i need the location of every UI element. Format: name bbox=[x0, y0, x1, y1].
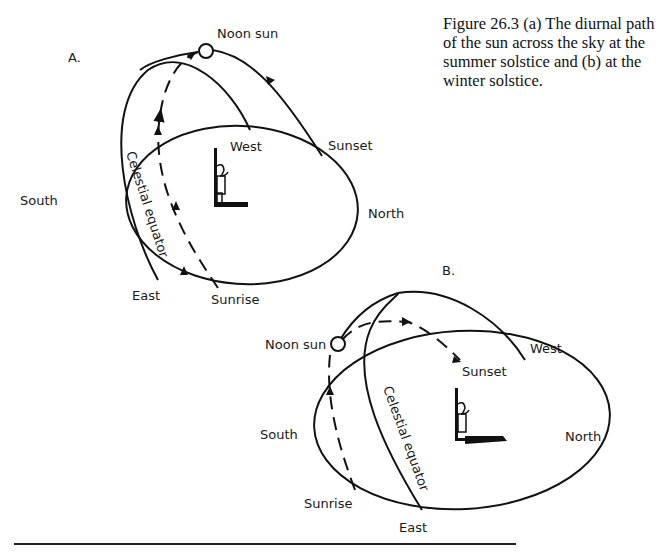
east-label-b: East bbox=[399, 520, 427, 535]
diagram-canvas: A. Noon sun West Sunset South North East… bbox=[0, 0, 658, 553]
south-label-a: South bbox=[20, 193, 58, 208]
panel-b: B. Noon sun West Sunset South North East… bbox=[260, 263, 614, 535]
panel-a: A. Noon sun West Sunset South North East… bbox=[20, 26, 404, 307]
bottom-rule-divider bbox=[14, 543, 516, 545]
south-label-b: South bbox=[260, 427, 298, 442]
north-label-b: North bbox=[565, 429, 601, 444]
arrow-icon bbox=[266, 76, 275, 85]
noon-sun-label-b: Noon sun bbox=[265, 337, 326, 352]
east-label-a: East bbox=[132, 288, 160, 303]
arrow-icon bbox=[402, 317, 411, 326]
panel-b-label: B. bbox=[442, 263, 455, 278]
observer-figure-icon-b bbox=[455, 388, 507, 444]
west-label-b: West bbox=[530, 341, 562, 356]
noon-sun-label-a: Noon sun bbox=[217, 26, 278, 41]
sunset-label-a: Sunset bbox=[328, 138, 373, 153]
sunset-label-b: Sunset bbox=[462, 364, 507, 379]
observer-figure-icon-a bbox=[214, 148, 248, 207]
noon-sun-icon-b bbox=[331, 337, 345, 351]
panel-a-label: A. bbox=[68, 50, 81, 65]
west-label-a: West bbox=[230, 139, 262, 154]
arrow-icon bbox=[172, 201, 180, 210]
horizon-ellipse-b bbox=[310, 323, 615, 516]
celestial-equator-label-b: Celestial equator bbox=[380, 384, 432, 494]
sky-arc-b bbox=[398, 292, 525, 360]
arrow-icon bbox=[154, 126, 162, 135]
celestial-equator-label-a: Celestial equator bbox=[123, 149, 172, 260]
noon-sun-icon-a bbox=[199, 44, 213, 58]
sunrise-label-b: Sunrise bbox=[304, 496, 352, 511]
north-label-a: North bbox=[368, 206, 404, 221]
sunrise-label-a: Sunrise bbox=[211, 292, 259, 307]
sun-path-rising-b bbox=[329, 355, 355, 490]
